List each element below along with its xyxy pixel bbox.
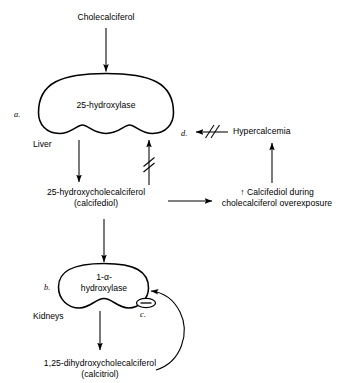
label-calcifediol-line2: (calcifediol) bbox=[74, 198, 118, 209]
label-1-alpha-hydroxylase-line2: hydroxylase bbox=[81, 283, 127, 294]
marker-c: c. bbox=[140, 310, 146, 319]
label-kidneys: Kidneys bbox=[33, 311, 64, 321]
label-calcitriol-line2: (calcitriol) bbox=[81, 369, 118, 380]
label-overexposure-line1: ↑ Calcifediol during bbox=[240, 187, 314, 198]
label-overexposure-line2: cholecalciferol overexposure bbox=[222, 198, 332, 209]
vitamin-d-pathway-diagram: Cholecalciferol 25-hydroxylase Liver a. … bbox=[0, 0, 350, 383]
label-calcifediol-line1: 25-hydroxycholecalciferol bbox=[47, 187, 145, 198]
label-1-alpha-hydroxylase-line1: 1-α- bbox=[96, 272, 112, 283]
label-hypercalcemia: Hypercalcemia bbox=[233, 126, 290, 137]
label-liver: Liver bbox=[33, 139, 52, 149]
marker-b: b. bbox=[44, 283, 50, 292]
label-cholecalciferol: Cholecalciferol bbox=[77, 12, 134, 23]
label-calcitriol-line1: 1,25-dihydroxycholecalciferol bbox=[44, 358, 156, 369]
label-25-hydroxylase: 25-hydroxylase bbox=[77, 100, 136, 111]
marker-d: d. bbox=[181, 129, 187, 138]
marker-a: a. bbox=[14, 110, 20, 119]
